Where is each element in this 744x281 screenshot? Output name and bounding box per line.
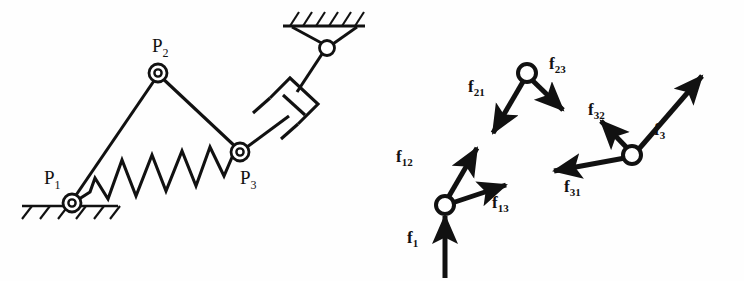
joint-label-P2-base: P [152,35,163,56]
vector-label-f13-sub: 13 [498,202,509,214]
mechanism-panel [22,12,365,219]
force-node-3[interactable] [623,146,641,164]
vector-label-f1-sub: 1 [413,237,419,249]
joint-label-P2: P2 [152,36,169,59]
joint-P2[interactable] [149,64,167,82]
joint-label-P3: P3 [240,168,257,191]
joint-label-P2-sub: 2 [163,46,169,60]
joint-label-P3-sub: 3 [251,178,257,192]
link-P2-P3 [160,76,239,150]
vector-label-f31: f31 [564,178,581,198]
vector-label-f23-sub: 23 [555,63,566,75]
joint-label-P1-sub: 1 [55,178,61,192]
vector-label-f3-sub: 3 [660,129,666,141]
spring-P1-P3 [76,147,233,201]
vector-label-f32: f32 [588,101,605,121]
vector-label-f3: f3 [654,121,665,141]
force-node-2[interactable] [518,64,536,82]
diagram-svg [0,0,744,281]
vector-f3 [638,76,702,150]
vector-f31 [554,158,625,171]
ground-top-right [283,12,365,26]
vector-label-f12: f12 [396,148,413,168]
vector-label-f32-sub: 32 [594,109,605,121]
vector-label-f13: f13 [492,194,509,214]
damper-dashpot [253,51,324,139]
vector-label-f1: f1 [407,229,418,249]
joint-P3[interactable] [231,143,249,161]
vector-label-f21-sub: 21 [474,86,485,98]
vector-f21 [493,80,524,133]
joint-label-P3-base: P [240,167,251,188]
link-P3-damper-rod [243,116,289,150]
force-node-1[interactable] [436,196,454,214]
joint-label-P1: P1 [44,168,61,191]
vector-label-f23: f23 [549,55,566,75]
vector-f23 [532,80,563,110]
vector-label-f21: f21 [468,78,485,98]
joint-wall-pivot[interactable] [320,41,335,56]
joint-label-P1-base: P [44,167,55,188]
vector-label-f12-sub: 12 [402,156,413,168]
figure-canvas: P1 P2 P3 f1 f12 f13 f21 f23 f32 f31 f3 [0,0,744,281]
vector-label-f31-sub: 31 [570,186,581,198]
vector-f32 [601,121,629,150]
joint-P1[interactable] [63,194,81,212]
